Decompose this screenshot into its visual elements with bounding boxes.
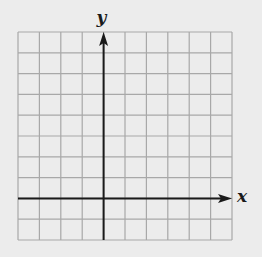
coordinate-plane: x y bbox=[0, 0, 262, 257]
y-axis-label: y bbox=[96, 7, 108, 27]
grid-lines bbox=[18, 32, 232, 240]
x-axis-label: x bbox=[236, 186, 248, 206]
coordinate-plane-svg: x y bbox=[0, 0, 262, 257]
